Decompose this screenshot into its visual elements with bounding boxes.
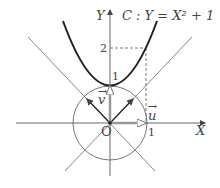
y-axis-label: Y [96, 8, 106, 23]
tick-x-1: 1 [148, 126, 155, 139]
vector-v-arrow: → [98, 85, 107, 98]
x-axis-label: X [195, 123, 206, 138]
origin-label: O [101, 124, 112, 139]
vector-u-arrow: → [148, 100, 157, 113]
tick-y-1: 1 [112, 70, 119, 83]
tick-y-2: 2 [100, 42, 107, 55]
equation-label: C : Y = X² + 1 [122, 8, 214, 23]
diagram: Y C : Y = X² + 1 2 1 1 O X v → u → [0, 0, 220, 188]
diagonal-vector-right [110, 99, 133, 123]
